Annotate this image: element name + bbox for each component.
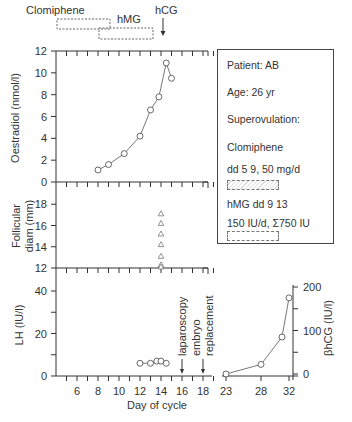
data-point bbox=[95, 167, 101, 173]
data-point bbox=[158, 253, 164, 258]
svg-text:16: 16 bbox=[35, 220, 47, 232]
svg-text:14: 14 bbox=[155, 385, 167, 397]
svg-text:12: 12 bbox=[35, 45, 47, 57]
svg-text:20: 20 bbox=[35, 328, 47, 340]
replacement-label: replacement bbox=[203, 295, 215, 356]
laparoscopy-arrow-icon bbox=[180, 369, 184, 374]
svg-text:18: 18 bbox=[197, 385, 209, 397]
lh-axis-label: LH (IU/l) bbox=[13, 305, 25, 346]
data-point bbox=[169, 75, 175, 81]
data-point bbox=[106, 162, 112, 168]
svg-text:0: 0 bbox=[41, 176, 47, 188]
svg-text:32: 32 bbox=[283, 385, 295, 397]
svg-text:10: 10 bbox=[35, 67, 47, 79]
data-point bbox=[158, 231, 164, 236]
data-point bbox=[156, 94, 162, 100]
svg-text:23: 23 bbox=[220, 385, 232, 397]
svg-text:28: 28 bbox=[255, 385, 267, 397]
data-point bbox=[258, 361, 264, 367]
clomiphene-bar bbox=[57, 19, 110, 29]
svg-text:10: 10 bbox=[113, 385, 125, 397]
svg-text:4: 4 bbox=[41, 132, 47, 144]
legend-clomiphene-dose: dd 5 9, 50 mg/d bbox=[227, 163, 300, 175]
follicle-axis-label-2: diam (mm) bbox=[23, 200, 35, 253]
data-point bbox=[137, 360, 143, 366]
svg-text:14: 14 bbox=[35, 241, 47, 253]
clomiphene-bar-label: Clomiphene bbox=[26, 4, 85, 16]
embryo-label: embryo bbox=[190, 319, 202, 356]
legend-hmg-dose: 150 IU/d, Σ750 IU bbox=[227, 217, 310, 229]
legend-age: Age: 26 yr bbox=[227, 86, 275, 98]
data-point bbox=[137, 133, 143, 139]
svg-text:0: 0 bbox=[41, 370, 47, 382]
svg-text:18: 18 bbox=[35, 198, 47, 210]
legend-clomiphene: Clomiphene bbox=[227, 141, 283, 153]
svg-text:12: 12 bbox=[134, 385, 146, 397]
svg-text:100: 100 bbox=[303, 325, 321, 337]
legend-superovulation: Superovulation: bbox=[227, 113, 300, 125]
legend-patient: Patient: AB bbox=[227, 59, 279, 71]
svg-text:12: 12 bbox=[35, 262, 47, 274]
event-annotations: laparoscopy embryo replacement bbox=[176, 295, 215, 374]
svg-text:200: 200 bbox=[303, 281, 321, 293]
legend-hmg-days: hMG dd 9 13 bbox=[227, 198, 288, 210]
oestradiol-axis-label: Oestradiol (nmol/l) bbox=[9, 73, 21, 163]
legend-hmg-swatch bbox=[227, 231, 279, 241]
svg-text:6: 6 bbox=[41, 111, 47, 123]
data-point bbox=[163, 360, 169, 366]
data-point bbox=[121, 151, 127, 157]
hcg-label: hCG bbox=[155, 4, 178, 16]
treatment-bars: Clomiphene hMG hCG bbox=[26, 4, 178, 39]
svg-text:2: 2 bbox=[41, 154, 47, 166]
data-point bbox=[158, 242, 164, 247]
hmg-bar bbox=[99, 28, 153, 39]
embryo-replacement-arrow-icon bbox=[201, 369, 205, 374]
laparoscopy-label: laparoscopy bbox=[176, 296, 188, 356]
hcg-arrowhead-icon bbox=[161, 31, 166, 36]
legend-clomiphene-swatch bbox=[227, 180, 279, 190]
hmg-bar-label: hMG bbox=[117, 13, 141, 25]
data-point bbox=[279, 334, 285, 340]
svg-text:6: 6 bbox=[74, 385, 80, 397]
svg-text:40: 40 bbox=[35, 285, 47, 297]
legend-box: Patient: AB Age: 26 yr Superovulation: C… bbox=[217, 49, 334, 244]
follicle-axis-label-1: Follicular bbox=[10, 204, 22, 248]
svg-text:0: 0 bbox=[303, 368, 309, 380]
data-point bbox=[223, 371, 229, 377]
x-axis-label: Day of cycle bbox=[127, 399, 187, 411]
data-point bbox=[148, 360, 154, 366]
data-point bbox=[163, 60, 169, 66]
data-point bbox=[158, 220, 164, 225]
svg-text:8: 8 bbox=[41, 89, 47, 101]
svg-text:8: 8 bbox=[95, 385, 101, 397]
svg-text:16: 16 bbox=[176, 385, 188, 397]
data-point bbox=[148, 107, 154, 113]
data-point bbox=[158, 211, 164, 216]
hcg-axis-label: βhCG (IU/l) bbox=[322, 300, 334, 356]
data-point bbox=[286, 295, 292, 301]
